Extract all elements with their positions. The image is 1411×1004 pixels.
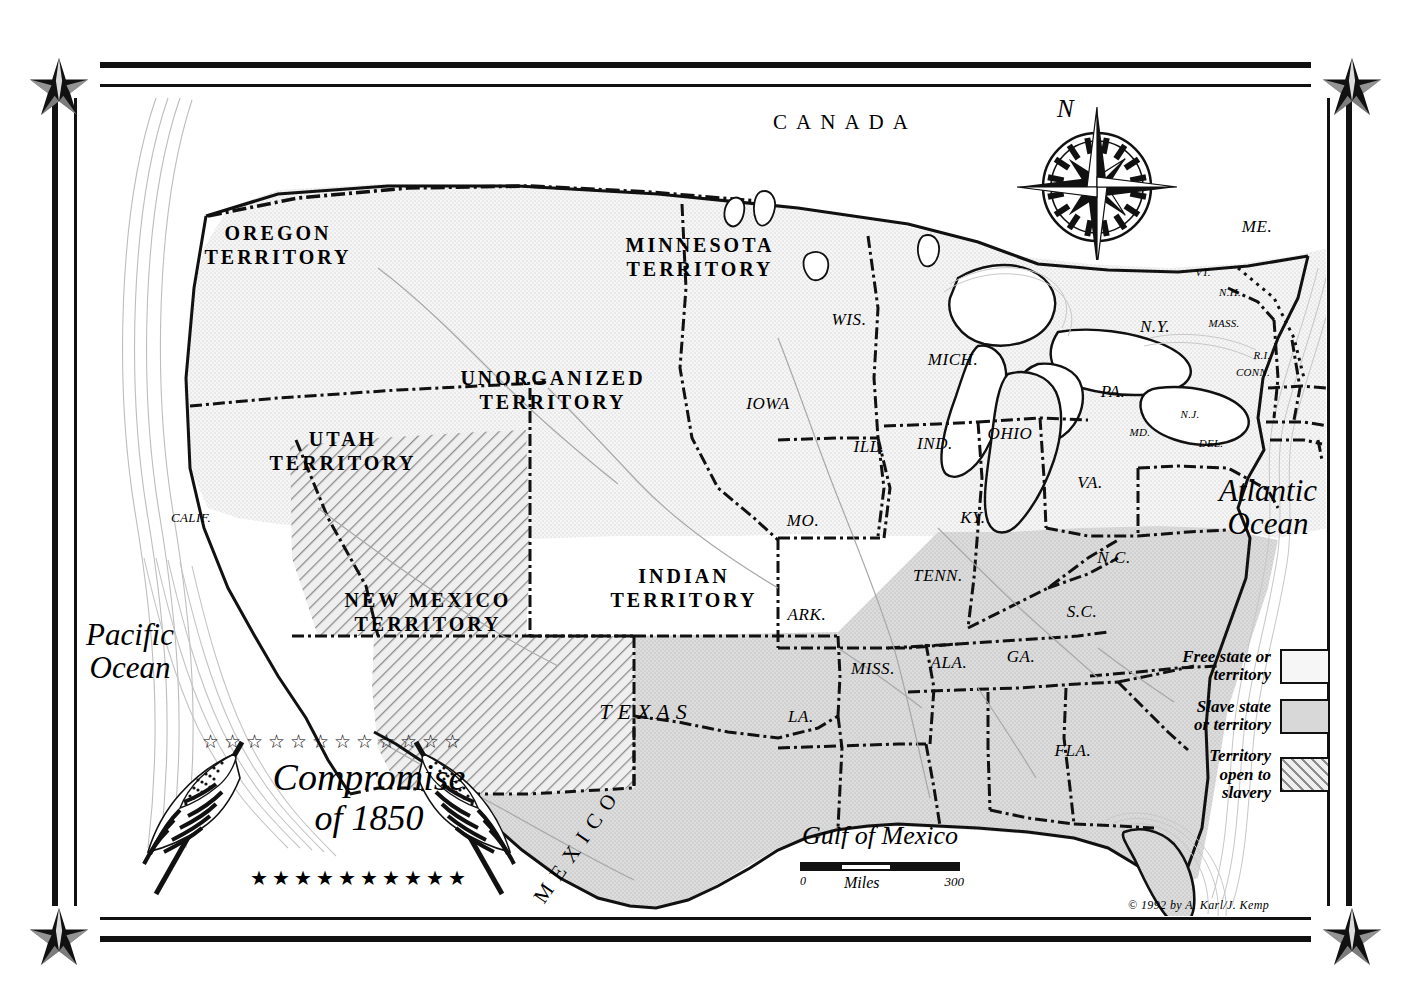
scale-unit-label: Miles (844, 874, 880, 892)
title-block: ☆☆☆☆☆☆☆☆☆☆☆☆ (130, 718, 530, 898)
corner-star-icon (1321, 906, 1383, 968)
legend-label-slave: Slave stateor territory (1194, 698, 1271, 735)
legend-row-open: Territoryopen toslavery (1152, 747, 1330, 802)
legend-row-slave: Slave stateor territory (1152, 698, 1330, 735)
scale-max-label: 300 (945, 874, 965, 890)
map-title-line1: Compromise (273, 756, 466, 798)
map-title-line2: of 1850 (254, 800, 484, 838)
scale-bar: 0 Miles 300 (800, 862, 960, 892)
corner-star-icon (1321, 56, 1383, 118)
map-poster: OREGONTERRITORYMINNESOTATERRITORYUNORGAN… (0, 0, 1411, 1004)
compass-rose: N (1005, 95, 1195, 260)
map-title: Compromise of 1850 (254, 758, 484, 838)
legend-row-free: Free state orterritory (1152, 648, 1330, 685)
legend-label-free: Free state orterritory (1182, 648, 1271, 685)
map-legend: Free state orterritorySlave stateor terr… (1152, 648, 1330, 816)
title-stars-bottom: ★★★★★★★★★★ (250, 866, 470, 890)
compass-rose-icon (1005, 95, 1195, 260)
compass-north-label: N (1057, 95, 1074, 123)
scale-min-label: 0 (800, 874, 806, 889)
region-utah-territory (290, 430, 530, 636)
legend-label-open: Territoryopen toslavery (1209, 747, 1271, 802)
legend-swatch-open (1280, 757, 1330, 792)
american-flag-left-icon (130, 736, 260, 898)
legend-swatch-slave (1280, 699, 1330, 734)
scale-bar-graphic (800, 862, 960, 871)
copyright-notice: © 1992 by A. Karl/J. Kemp (1128, 898, 1269, 913)
scale-bar-labels: 0 Miles 300 (800, 874, 960, 892)
legend-swatch-free (1280, 649, 1330, 684)
